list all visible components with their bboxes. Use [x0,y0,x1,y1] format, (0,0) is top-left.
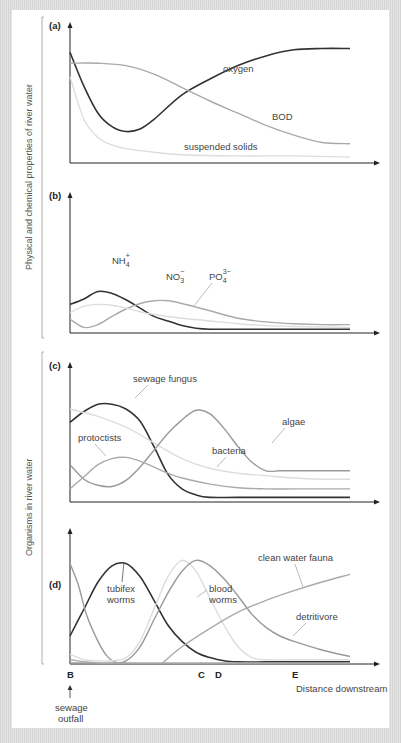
leader-bacteria [217,457,226,467]
river-pollution-chart: Physical and chemical properties of rive… [0,0,401,743]
panel-label-c: (c) [49,360,61,371]
leader-algae [272,428,285,443]
svg-text:NO3−: NO3− [166,268,184,284]
marker-e: E [292,669,298,680]
leader-tubifex [122,562,124,582]
label-nh4: NH4+ [112,252,130,268]
y-group-label-physical: Physical and chemical properties of rive… [24,84,34,270]
x-arrow-icon [374,161,380,166]
panel-label-a: (a) [49,20,61,31]
bracket-physical [42,17,44,338]
label-blood-2: worms [208,594,237,605]
label-protoctists: protoctists [78,432,122,443]
series-c-bacteria [70,409,350,479]
label-suspended-solids: suspended solids [184,141,258,152]
label-algae: algae [282,416,305,427]
y-arrow-icon [68,528,73,534]
y-arrow-icon [68,362,73,368]
label-clean-water-fauna: clean water fauna [258,552,334,563]
label-detritivore: detritivore [296,611,338,622]
series-a-bod [70,63,350,144]
marker-b: B [67,669,74,680]
series-d-sewage-fungus-decline [70,564,126,663]
label-tubifex-1: tubifex [107,583,135,594]
label-sewage-fungus: sewage fungus [133,373,197,384]
leader-sewage-fungus [135,385,148,398]
leader-fauna [295,564,303,587]
series-c-protoctists [70,457,350,489]
marker-d: D [215,669,222,680]
y-arrow-icon [68,22,73,28]
label-blood-1: blood [209,583,232,594]
x-arrow-icon [374,331,380,336]
series-b-no3- [70,300,350,327]
leader-detritivore [293,623,306,636]
label-bacteria: bacteria [212,445,247,456]
label-no3: NO3− [166,268,184,284]
leader-protoctists [95,444,106,456]
y-group-label-organisms: Organisms in river water [24,458,34,556]
marker-c: C [198,669,205,680]
y-arrow-icon [68,192,73,198]
x-axis-label: Distance downstream [296,683,387,694]
outfall-label-1: sewage [55,702,88,713]
x-arrow-icon [374,662,380,667]
svg-text:PO43−: PO43− [209,268,231,284]
outfall-label-2: outfall [58,713,83,724]
leader-po4 [193,283,212,307]
label-bod: BOD [272,111,293,122]
label-po4: PO43− [209,268,231,284]
outfall-arrow-icon [68,685,73,698]
panel-label-d: (d) [49,579,61,590]
x-arrow-icon [374,500,380,505]
panel-label-b: (b) [49,190,61,201]
svg-text:NH4+: NH4+ [112,252,130,268]
bracket-organisms [42,352,44,664]
series-a-oxygen [70,48,350,131]
label-oxygen: oxygen [223,63,254,74]
label-tubifex-2: worms [106,594,135,605]
leader-blood [197,590,207,597]
